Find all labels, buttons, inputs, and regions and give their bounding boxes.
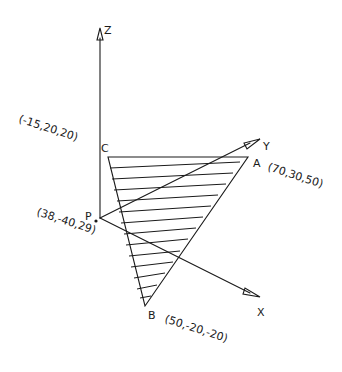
- y-axis-label: Y: [262, 140, 270, 153]
- vertex-c-label: C: [101, 142, 109, 155]
- vertex-c-coords: (-15,20,20): [17, 112, 80, 143]
- x-axis-label: X: [257, 306, 265, 319]
- point-p-dot: [94, 219, 97, 222]
- y-arrow-icon: [244, 139, 260, 149]
- diagram-canvas: Z Y X C (-15,20,20): [0, 0, 342, 372]
- vertex-b-label: B: [148, 309, 156, 322]
- vertex-b-coords: (50,-20,-20): [163, 312, 229, 345]
- vertex-a-coords: (70,30,50): [266, 160, 325, 190]
- z-axis-label: Z: [104, 24, 112, 37]
- vertex-a-label: A: [253, 157, 261, 170]
- z-axis: Z: [97, 24, 112, 218]
- x-arrow-icon: [243, 288, 260, 297]
- x-axis: X: [100, 218, 265, 319]
- triangle-hatching: [110, 162, 240, 298]
